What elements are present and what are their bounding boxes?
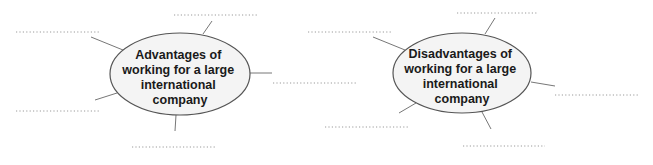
spoke-lower-left (95, 93, 117, 100)
disadvantages-diagram: Disadvantages of working for a large int… (308, 13, 638, 146)
spoke-upper-left (91, 37, 123, 50)
spoke-top (485, 18, 495, 34)
advantages-diagram: Advantages of working for a large intern… (16, 15, 357, 147)
label-line-3: international (141, 78, 216, 92)
label-line-3: international (423, 77, 498, 91)
label-line-1: Advantages of (135, 48, 222, 62)
spoke-upper-left (373, 37, 405, 50)
label-line-1: Disadvantages of (409, 47, 513, 61)
mind-map-canvas: Advantages of working for a large intern… (0, 0, 653, 165)
label-line-2: working for a large (121, 63, 234, 77)
spoke-right (531, 82, 555, 86)
spoke-bottom (482, 112, 491, 129)
spoke-bottom (175, 115, 176, 131)
spoke-lower-left (399, 103, 416, 113)
label-line-4: company (435, 92, 490, 106)
spoke-top (203, 21, 212, 34)
label-line-2: working for a large (403, 62, 516, 76)
label-line-4: company (153, 93, 208, 107)
